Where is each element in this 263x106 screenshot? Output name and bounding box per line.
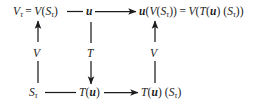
- arrow-label-right-vertical: V: [148, 47, 159, 61]
- node-top-middle: u: [86, 6, 93, 18]
- node-bottom-middle: T(u): [79, 87, 100, 99]
- commutative-diagram: Vτ = V(Sτ) u u(V(Sτ)) = V(T(u) (Sτ)) Sτ …: [0, 0, 263, 106]
- node-bottom-middle-text: T(u): [79, 86, 100, 98]
- node-bottom-left-text: Sτ: [29, 86, 38, 98]
- node-bottom-right: T(u) (Sτ): [141, 87, 181, 100]
- node-top-left-text: Vτ = V(Sτ): [13, 5, 58, 17]
- arrow-label-middle-vertical: T: [85, 47, 95, 61]
- node-top-right-text: u(V(Sτ)) = V(T(u) (Sτ)): [139, 5, 244, 17]
- node-top-middle-text: u: [86, 5, 93, 17]
- node-bottom-left: Sτ: [29, 87, 38, 100]
- node-bottom-right-text: T(u) (Sτ): [141, 86, 181, 98]
- node-top-left: Vτ = V(Sτ): [13, 6, 58, 19]
- tau-subscript: τ: [35, 91, 38, 100]
- arrow-label-left-vertical: V: [31, 47, 42, 61]
- node-top-right: u(V(Sτ)) = V(T(u) (Sτ)): [139, 6, 244, 19]
